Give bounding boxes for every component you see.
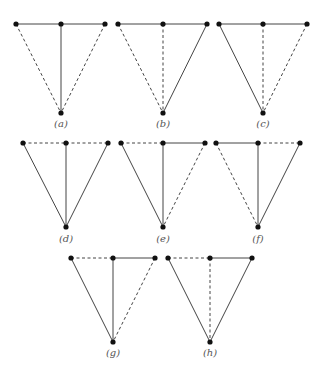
vertex-m [160,140,165,145]
vertex-m [255,140,260,145]
vertex-r [105,140,110,145]
edge-lb-solid [121,143,163,227]
vertex-l [216,21,221,26]
vertex-m [260,21,265,26]
edge-rb-solid [210,258,252,342]
vertex-l [20,140,25,145]
vertex-l [213,140,218,145]
graph-c: (c) [216,21,309,129]
vertex-l [13,21,18,26]
graph-a: (a) [13,21,107,129]
graph-g: (g) [68,255,157,358]
vertex-m [58,21,63,26]
edge-rb-solid [163,24,207,113]
vertex-b [110,339,115,344]
vertex-r [152,255,157,260]
vertex-r [202,140,207,145]
vertex-m [207,255,212,260]
edge-rb-dashed [61,24,105,113]
graph-label: (d) [59,233,73,244]
vertex-b [63,224,68,229]
vertex-l [115,21,120,26]
vertex-b [58,110,63,115]
vertex-r [102,21,107,26]
vertex-l [118,140,123,145]
edge-lb-dashed [216,143,258,227]
graph-e: (e) [118,140,207,244]
vertex-m [63,140,68,145]
graph-label: (b) [156,118,170,129]
edge-rb-solid [66,143,108,227]
graph-label: (f) [252,233,264,244]
graph-b: (b) [115,21,209,129]
vertex-m [110,255,115,260]
vertex-l [68,255,73,260]
edge-lb-solid [71,258,113,342]
vertex-b [160,224,165,229]
graph-label: (h) [203,347,217,358]
edge-lb-solid [23,143,66,227]
graph-f: (f) [213,140,302,244]
edge-rb-dashed [263,24,307,113]
edge-rb-solid [258,143,300,227]
edge-rb-dashed [113,258,155,342]
graph-diagram-panel: (a)(b)(c)(d)(e)(f)(g)(h) [0,0,322,375]
vertex-r [249,255,254,260]
vertex-r [204,21,209,26]
edge-lb-solid [168,258,210,342]
vertex-b [160,110,165,115]
edge-rb-dashed [163,143,205,227]
edge-lb-solid [219,24,263,113]
graph-label: (c) [256,118,270,129]
graph-label: (g) [106,347,120,358]
graph-label: (e) [156,233,170,244]
graph-d: (d) [20,140,110,244]
vertex-r [297,140,302,145]
edge-lb-dashed [16,24,61,113]
edge-lb-dashed [118,24,163,113]
vertex-b [260,110,265,115]
vertex-l [165,255,170,260]
vertex-r [304,21,309,26]
vertex-b [207,339,212,344]
graph-label: (a) [54,118,68,129]
vertex-b [255,224,260,229]
graph-h: (h) [165,255,254,358]
vertex-m [160,21,165,26]
